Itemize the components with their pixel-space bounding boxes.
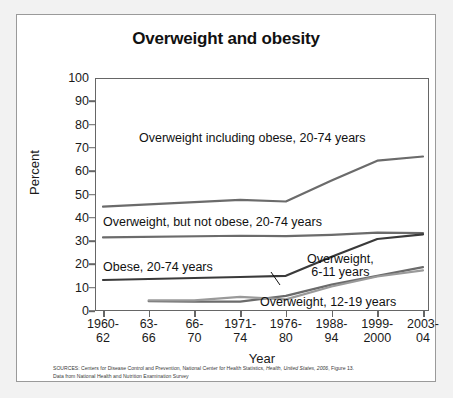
y-tick-label: 60: [63, 164, 89, 178]
source-prefix: SOURCES: Centers for Disease Control and…: [53, 365, 266, 371]
y-tick-label: 10: [63, 281, 89, 295]
series-line: [103, 233, 423, 238]
x-tick-label-line1: 1976-: [270, 317, 302, 331]
y-tick-label: 90: [63, 94, 89, 108]
y-tick-label: 70: [63, 141, 89, 155]
y-tick-label: 30: [63, 234, 89, 248]
x-axis-tick-labels: 1960-6263-6666-701971-741976-801988-9419…: [95, 317, 429, 351]
y-tick-label: 0: [63, 304, 89, 318]
series-label: Overweight, 12-19 years: [260, 296, 396, 309]
x-tick-label-line1: 63-: [140, 317, 158, 331]
y-axis-tick-labels: 0102030405060708090100: [59, 78, 89, 311]
figure-canvas: Overweight and obesity Percent 010203040…: [0, 0, 453, 398]
x-axis-title: Year: [95, 351, 429, 366]
series-label: Overweight, but not obese, 20-74 years: [103, 216, 322, 229]
x-tick-label-line1: 1988-: [316, 317, 348, 331]
series-label: Overweight including obese, 20-74 years: [139, 132, 366, 145]
y-tick-label: 20: [63, 257, 89, 271]
series-label: Obese, 20-74 years: [103, 261, 213, 274]
y-tick-label: 50: [63, 188, 89, 202]
chart-title: Overweight and obesity: [17, 29, 435, 49]
x-tick-label-line1: 1960-: [87, 317, 119, 331]
source-suffix: , Figure 13.: [328, 365, 354, 371]
series-label-line2: 6-11 years: [307, 266, 374, 279]
x-tick-label: 2003-04: [396, 317, 450, 345]
y-tick-label: 40: [63, 211, 89, 225]
source-note-line-2: Data from National Health and Nutrition …: [53, 373, 443, 381]
source-note-line-1: SOURCES: Centers for Disease Control and…: [53, 365, 443, 373]
y-tick-label: 80: [63, 118, 89, 132]
x-tick-label-line1: 1999-: [361, 317, 393, 331]
series-label: Overweight,6-11 years: [307, 253, 374, 279]
figure-border: Overweight and obesity Percent 010203040…: [16, 14, 436, 382]
x-tick-label-line2: 04: [396, 331, 450, 345]
source-italic-title: Health, United States, 2006: [266, 365, 328, 371]
x-tick-label-line1: 1971-: [224, 317, 256, 331]
annotation-leader-line: [271, 272, 280, 285]
source-note: SOURCES: Centers for Disease Control and…: [53, 365, 443, 380]
plot-area: [95, 78, 429, 311]
x-tick-label-line1: 66-: [185, 317, 203, 331]
x-tick-label-line1: 2003-: [407, 317, 439, 331]
series-lines: [95, 78, 429, 311]
series-line: [103, 157, 423, 207]
y-tick-label: 100: [63, 71, 89, 85]
y-axis-title: Percent: [27, 133, 42, 213]
